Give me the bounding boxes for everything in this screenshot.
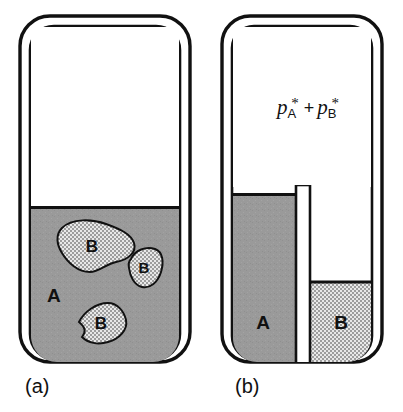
formula-p-b: p <box>317 95 328 119</box>
panel-a-group: B B B A <box>20 16 190 365</box>
liquid-a-right-panel-body <box>230 194 296 366</box>
formula-p-a: p <box>277 95 288 119</box>
figure-root: B B B A <box>0 0 403 412</box>
formula-star-a: * <box>291 95 299 111</box>
vessel-a-headspace <box>31 27 179 207</box>
panel-b-caption: (b) <box>235 375 259 398</box>
droplet-b-3-label: B <box>95 314 107 333</box>
liquid-b-label: B <box>334 312 348 333</box>
droplet-b-1-label: B <box>86 237 98 256</box>
compartment-divider <box>296 185 310 365</box>
diagram-canvas: B B B A <box>0 0 403 412</box>
vapour-pressure-formula: pA*+pB* <box>252 95 364 121</box>
panel-b-group: A B <box>222 16 382 366</box>
panel-a-caption: (a) <box>25 375 49 398</box>
liquid-a-right-label: A <box>256 312 270 333</box>
droplet-b-2-label: B <box>139 259 150 276</box>
formula-operator: + <box>304 98 315 118</box>
liquid-a-label: A <box>47 285 61 306</box>
formula-star-b: * <box>331 95 339 111</box>
